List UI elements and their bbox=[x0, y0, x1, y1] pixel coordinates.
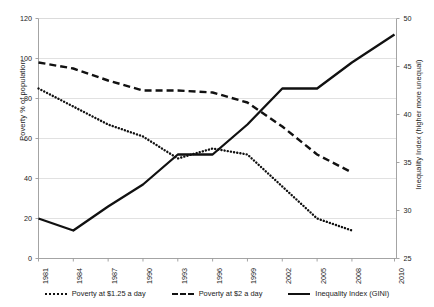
legend-item[interactable]: Poverty at $1.25 a day bbox=[45, 289, 146, 298]
plot-area bbox=[0, 0, 434, 307]
chart-container: Poverty % of population Inequality Index… bbox=[0, 0, 434, 307]
chart-legend: Poverty at $1.25 a dayPoverty at $2 a da… bbox=[0, 289, 434, 298]
legend-item[interactable]: Poverty at $2 a day bbox=[172, 289, 263, 298]
legend-label: Inequality Index (GINI) bbox=[315, 289, 389, 298]
legend-swatch-dashed-icon bbox=[172, 293, 194, 295]
legend-label: Poverty at $2 a day bbox=[199, 289, 263, 298]
legend-label: Poverty at $1.25 a day bbox=[72, 289, 146, 298]
legend-swatch-solid-icon bbox=[288, 293, 310, 295]
series-line bbox=[39, 63, 352, 173]
legend-swatch-dotted-icon bbox=[45, 293, 67, 295]
legend-item[interactable]: Inequality Index (GINI) bbox=[288, 289, 389, 298]
series-line bbox=[39, 89, 352, 231]
series-line bbox=[39, 35, 395, 231]
